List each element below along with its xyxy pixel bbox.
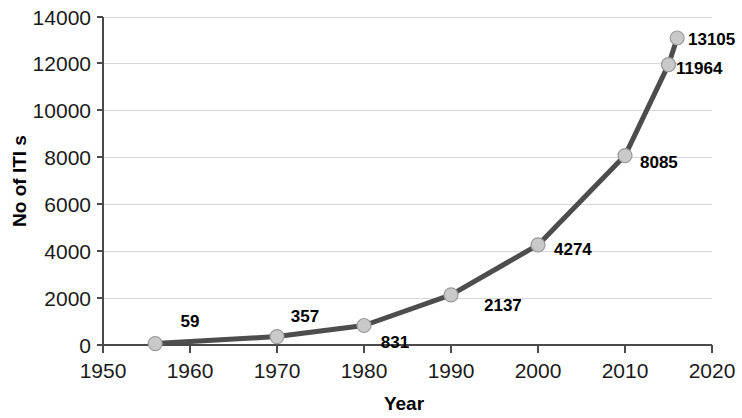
data-point-marker-1970 [270,330,284,344]
point-label-2010: 8085 [640,153,678,172]
data-point-marker-1980 [357,319,371,333]
x-tick-label-1950: 1950 [80,359,127,382]
y-tick-label-14000: 14000 [33,6,91,29]
point-label-2000: 4274 [554,240,592,259]
point-label-1956: 59 [181,312,200,331]
y-tick-label-12000: 12000 [33,52,91,75]
y-tick-label-0: 0 [79,334,91,357]
line-chart: 14000 12000 10000 8000 6000 4000 2000 0 … [0,0,742,418]
chart-canvas: 14000 12000 10000 8000 6000 4000 2000 0 … [0,0,742,418]
data-point-labels: 59 357 831 2137 4274 8085 11964 13105 [181,30,736,352]
y-tick-label-4000: 4000 [44,240,91,263]
axes [103,17,712,345]
data-point-marker-1956 [148,337,162,351]
data-point-marker-1990 [444,288,458,302]
point-label-1990: 2137 [484,296,522,315]
point-label-2016: 13105 [688,30,735,49]
y-tick-label-6000: 6000 [44,193,91,216]
x-axis-title: Year [384,393,425,414]
y-tick-label-8000: 8000 [44,146,91,169]
x-tick-labels: 1950 1960 1970 1980 1990 2000 2010 2020 [80,359,736,382]
point-label-2015: 11964 [676,59,723,78]
y-tick-labels: 14000 12000 10000 8000 6000 4000 2000 0 [33,6,91,357]
x-tick-label-1990: 1990 [428,359,475,382]
x-tick-label-2010: 2010 [602,359,649,382]
data-point-marker-2000 [531,238,545,252]
data-point-markers [148,31,684,351]
x-tick-label-1960: 1960 [167,359,214,382]
y-tick-label-2000: 2000 [44,287,91,310]
y-tick-label-10000: 10000 [33,99,91,122]
point-label-1970: 357 [291,307,319,326]
x-tick-label-1970: 1970 [254,359,301,382]
data-point-marker-2015 [662,58,676,72]
x-tick-label-2020: 2020 [689,359,736,382]
y-axis-title: No of ITI s [9,135,30,227]
data-point-marker-2016 [670,31,684,45]
x-tick-label-2000: 2000 [515,359,562,382]
data-point-marker-2010 [618,149,632,163]
y-axis-ticks [97,17,103,345]
point-label-1980: 831 [381,333,409,352]
x-tick-label-1980: 1980 [341,359,388,382]
